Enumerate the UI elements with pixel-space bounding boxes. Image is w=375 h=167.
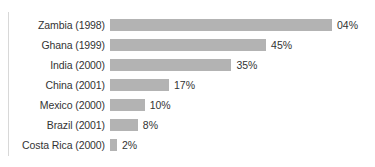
category-label: Brazil (2001) xyxy=(0,119,110,131)
category-label: India (2000) xyxy=(0,59,110,71)
category-label: Zambia (1998) xyxy=(0,19,110,31)
bar-row: India (2000) 35% xyxy=(0,55,375,75)
bar-track: 04% xyxy=(110,15,375,35)
category-label: China (2001) xyxy=(0,79,110,91)
category-label: Costa Rica (2000) xyxy=(0,139,110,151)
bar-chart: Zambia (1998) 04% Ghana (1999) 45% India… xyxy=(0,0,375,167)
bar-value-label: 45% xyxy=(266,39,292,51)
bar-row: Brazil (2001) 8% xyxy=(0,115,375,135)
bar-fill xyxy=(110,99,145,111)
bar-track: 45% xyxy=(110,35,375,55)
bar-fill xyxy=(110,139,117,151)
bar-value-label: 17% xyxy=(169,79,195,91)
bar-row: Zambia (1998) 04% xyxy=(0,15,375,35)
bar-row: Ghana (1999) 45% xyxy=(0,35,375,55)
bar-track: 2% xyxy=(110,135,375,155)
bar-value-label: 35% xyxy=(231,59,257,71)
bar-value-label: 10% xyxy=(145,99,171,111)
bar-fill xyxy=(110,39,266,51)
bar-track: 35% xyxy=(110,55,375,75)
bar-row: Costa Rica (2000) 2% xyxy=(0,135,375,155)
bar-value-label: 2% xyxy=(117,139,137,151)
category-label: Ghana (1999) xyxy=(0,39,110,51)
bar-track: 17% xyxy=(110,75,375,95)
bar-value-label: 8% xyxy=(138,119,158,131)
bar-track: 8% xyxy=(110,115,375,135)
bar-fill xyxy=(110,59,231,71)
bar-value-label: 04% xyxy=(332,19,358,31)
bar-fill xyxy=(110,119,138,131)
bar-row: China (2001) 17% xyxy=(0,75,375,95)
category-label: Mexico (2000) xyxy=(0,99,110,111)
bar-track: 10% xyxy=(110,95,375,115)
bar-rows: Zambia (1998) 04% Ghana (1999) 45% India… xyxy=(0,15,375,155)
bar-fill xyxy=(110,79,169,91)
bar-fill xyxy=(110,19,332,31)
bar-row: Mexico (2000) 10% xyxy=(0,95,375,115)
